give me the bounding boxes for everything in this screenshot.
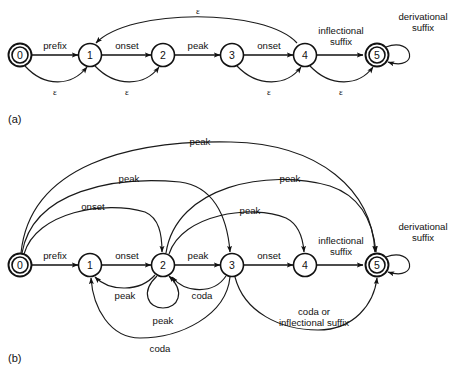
fsa-canvas: 0 1 2 3 4 5 pre [0, 0, 462, 375]
state-b-5: 5 [366, 254, 389, 277]
edge-label-b-0-5-peak: peak [190, 136, 211, 147]
panel-b: 0 1 2 3 4 5 pre [8, 136, 448, 365]
edge-label-b-0-3-peak: peak [119, 173, 140, 184]
state-b-2-label: 2 [160, 259, 166, 271]
state-b-5-label: 5 [374, 259, 380, 271]
edge-b-self-5 [386, 255, 410, 274]
edge-label-b-onset-1-2: onset [115, 250, 139, 261]
state-a-1: 1 [79, 44, 102, 67]
state-b-3-label: 3 [229, 259, 235, 271]
edge-label-b-3-5-coda-or-inflectional: coda orinflectional suffix [279, 306, 349, 328]
state-a-5: 5 [366, 44, 389, 67]
state-a-0: 0 [9, 44, 32, 67]
edge-label-b-2-5-peak: peak [280, 173, 301, 184]
edge-b-0-3-peak [22, 181, 230, 253]
state-b-4: 4 [294, 254, 317, 277]
edge-b-0-2-onset [24, 208, 162, 254]
edge-a-eps-0-1 [25, 66, 87, 82]
edge-label-b-2-4-peak: peak [240, 205, 261, 216]
state-a-3-label: 3 [229, 49, 235, 61]
state-b-2: 2 [152, 254, 175, 277]
state-b-0-label: 0 [17, 259, 23, 271]
edge-b-self-2-peak [147, 276, 178, 308]
state-a-4-label: 4 [302, 49, 308, 61]
state-a-2: 2 [152, 44, 175, 67]
edge-label-b-0-2-onset: onset [81, 201, 105, 212]
edge-b-2-1-peak [95, 275, 155, 288]
edge-label-a-eps-1-2: ε [125, 87, 129, 97]
edge-label-a-eps-3-4: ε [267, 87, 271, 97]
edge-label-b-peak-2-3: peak [188, 250, 209, 261]
edge-label-a-derivational-suffix: derivationalsuffix [398, 11, 447, 33]
state-a-2-label: 2 [160, 49, 166, 61]
state-b-3: 3 [221, 254, 244, 277]
edge-label-a-peak-2-3: peak [188, 40, 209, 51]
state-b-0: 0 [9, 254, 32, 277]
edge-a-self-5 [386, 45, 410, 64]
state-b-1-label: 1 [87, 259, 93, 271]
state-b-1: 1 [79, 254, 102, 277]
edge-label-b-inflectional-suffix: inflectionalsuffix [318, 235, 363, 257]
edge-label-b-prefix: prefix [43, 250, 67, 261]
panel-a-caption: (a) [8, 113, 21, 125]
edge-label-a-eps-0-1: ε [53, 87, 57, 97]
state-a-4: 4 [294, 44, 317, 67]
edge-label-a-onset-3-4: onset [257, 40, 281, 51]
state-a-0-label: 0 [17, 49, 23, 61]
edge-label-b-self-2-peak: peak [153, 315, 174, 326]
panel-a: 0 1 2 3 4 5 pre [8, 6, 448, 125]
edge-label-a-inflectional-suffix: inflectionalsuffix [318, 25, 363, 47]
edge-label-a-onset-1-2: onset [115, 40, 139, 51]
state-a-1-label: 1 [87, 49, 93, 61]
state-a-5-label: 5 [374, 49, 380, 61]
edge-label-b-3-2-coda: coda [192, 290, 213, 301]
fsa-figure: 0 1 2 3 4 5 pre [0, 0, 462, 375]
state-b-4-label: 4 [302, 259, 308, 271]
edge-b-3-2-coda [172, 276, 226, 290]
edge-label-a-prefix: prefix [43, 40, 67, 51]
edge-label-b-3-1-coda: coda [150, 343, 171, 354]
edge-a-eps-3-4 [237, 66, 301, 82]
state-a-3: 3 [221, 44, 244, 67]
edge-label-b-onset-3-4: onset [257, 250, 281, 261]
panel-b-caption: (b) [8, 352, 21, 364]
edge-label-a-eps-4-1: ε [196, 6, 200, 16]
edge-a-eps-1-2 [95, 66, 159, 82]
edge-label-b-2-1-peak: peak [115, 290, 136, 301]
edge-label-a-eps-4-5: ε [339, 87, 343, 97]
edge-b-2-4-peak [169, 212, 304, 254]
edge-a-eps-4-5 [310, 66, 373, 82]
edge-label-b-derivational-suffix: derivationalsuffix [398, 221, 447, 243]
